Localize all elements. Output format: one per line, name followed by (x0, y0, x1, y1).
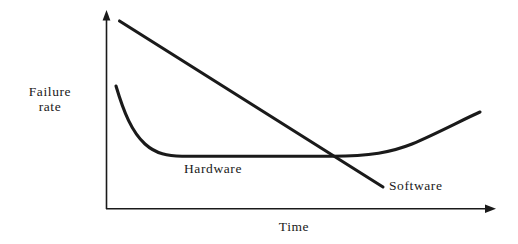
x-axis-title: Time (240, 220, 348, 235)
y-axis-title-line-1: Failure (29, 84, 71, 99)
series-line-software (120, 21, 384, 187)
series-label-software: Software (389, 178, 443, 194)
series-label-hardware: Hardware (184, 161, 242, 177)
failure-rate-chart: Failurerate Time Hardware Software (0, 0, 518, 244)
y-axis-arrow (103, 10, 111, 21)
chart-plot-area (0, 0, 518, 244)
y-axis-title-line-2: rate (0, 100, 100, 115)
series-line-hardware (116, 86, 480, 156)
x-axis-arrow (485, 205, 496, 213)
y-axis-title: Failurerate (0, 85, 100, 114)
